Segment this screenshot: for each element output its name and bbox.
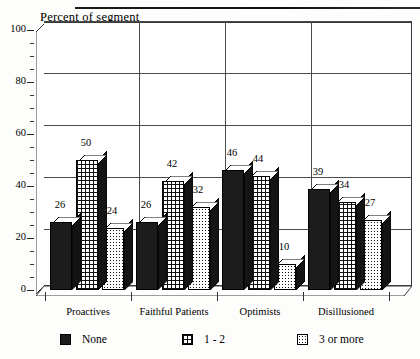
y-axis-minor-tick: [30, 121, 34, 122]
legend-item-3-or-more[interactable]: 3 or more: [297, 333, 364, 345]
x-axis-tick: [389, 292, 390, 301]
y-axis-minor-tick: [30, 108, 34, 109]
x-axis-label-disillusioned: Disillusioned: [286, 306, 406, 317]
x-axis-tick: [131, 292, 132, 301]
y-axis-minor-tick: [30, 56, 34, 57]
scan-artifact-line: [75, 7, 420, 9]
chart-figure: Percent of segment 100806040200 24502632…: [0, 0, 420, 359]
x-axis-tick: [303, 292, 304, 301]
legend-label: 3 or more: [319, 333, 364, 345]
bar-value-label: 46: [215, 147, 249, 158]
chart-legend: None1 - 23 or more: [0, 333, 420, 355]
legend-label: 1 - 2: [204, 333, 225, 345]
x-axis-tick: [217, 292, 218, 301]
bar-none-proactives: [50, 213, 72, 290]
bar-none-faithful-patients: [136, 213, 158, 290]
y-axis-minor-tick: [30, 69, 34, 70]
y-axis-minor-tick: [30, 160, 34, 161]
y-axis-tick: [27, 82, 34, 83]
y-axis-tick: [27, 134, 34, 135]
bar-side-face: [98, 151, 107, 290]
y-axis-minor-tick: [30, 173, 34, 174]
y-axis-tick: [27, 186, 34, 187]
bar-value-label: 26: [43, 199, 77, 210]
y-axis-minor-tick: [30, 225, 34, 226]
bar-front-face: [50, 222, 72, 290]
legend-swatch-icon: [297, 334, 308, 345]
bar-front-face: [136, 222, 158, 290]
y-axis-tick: [27, 30, 34, 31]
legend-swatch-icon: [60, 334, 71, 345]
y-axis-minor-tick: [30, 277, 34, 278]
legend-swatch-icon: [182, 334, 193, 345]
y-axis-tick-label: 0: [0, 284, 26, 294]
legend-label: None: [82, 333, 107, 345]
bar-value-label: 39: [301, 166, 335, 177]
bar-value-label: 50: [69, 137, 103, 148]
bar-side-face: [270, 167, 279, 290]
bar-front-face: [222, 170, 244, 290]
bar-value-label: 26: [129, 199, 163, 210]
y-axis-minor-tick: [30, 147, 34, 148]
bar-side-face: [330, 180, 339, 290]
y-axis-minor-tick: [30, 251, 34, 252]
gridline: [44, 73, 412, 74]
bar-front-face: [308, 189, 330, 290]
gridline: [44, 125, 412, 126]
bar-side-face: [184, 172, 193, 290]
y-axis-tick-label: 20: [0, 232, 26, 242]
legend-item-none[interactable]: None: [60, 333, 107, 345]
bar-side-face: [244, 161, 253, 290]
y-axis-tick-label: 100: [0, 24, 26, 34]
y-axis-tick-label: 40: [0, 180, 26, 190]
x-axis-tick: [45, 292, 46, 301]
gridline: [44, 21, 412, 22]
y-axis-minor-tick: [30, 43, 34, 44]
y-axis-minor-tick: [30, 212, 34, 213]
y-axis-tick: [27, 290, 34, 291]
bar-none-optimists: [222, 161, 244, 290]
y-axis-tick-label: 80: [0, 76, 26, 86]
legend-item-1---2[interactable]: 1 - 2: [182, 333, 225, 345]
y-axis-minor-tick: [30, 95, 34, 96]
bar-value-label: 42: [155, 158, 189, 169]
bar-side-face: [356, 193, 365, 290]
y-axis-tick: [27, 238, 34, 239]
bar-none-disillusioned: [308, 180, 330, 290]
y-axis-tick-label: 60: [0, 128, 26, 138]
y-axis-minor-tick: [30, 199, 34, 200]
y-axis-minor-tick: [30, 264, 34, 265]
